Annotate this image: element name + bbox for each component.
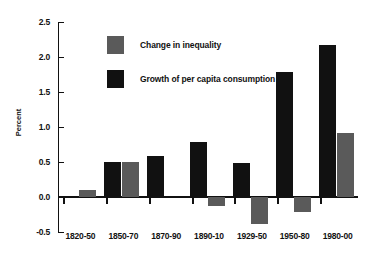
x-tick-mark: [106, 198, 108, 204]
y-tick-mark: [58, 92, 64, 93]
x-tick-mark: [63, 198, 65, 204]
x-tick-mark: [277, 198, 279, 204]
x-tick-label: 1980-00: [323, 231, 353, 241]
bar: [147, 156, 164, 197]
bar: [294, 197, 311, 212]
chart-figure: 2.52.01.51.00.50.0-0.5 Percent 1820-5018…: [0, 0, 372, 261]
y-axis-title: Percent: [14, 93, 23, 153]
bar: [122, 162, 139, 197]
legend-label-change-in-inequality: Change in inequality: [140, 40, 221, 50]
y-tick-label: 1.0: [4, 122, 50, 132]
legend-swatch-black: [107, 70, 124, 88]
x-tick-label: 1929-50: [237, 231, 267, 241]
x-tick-label: 1820-50: [66, 231, 96, 241]
y-tick-mark: [58, 22, 64, 23]
bar: [337, 133, 354, 197]
y-tick-mark: [58, 57, 64, 58]
x-tick-label: 1850-70: [108, 231, 138, 241]
x-tick-mark: [234, 198, 236, 204]
bar: [79, 190, 96, 197]
y-tick-mark: [58, 127, 64, 128]
x-tick-label: 1890-10: [194, 231, 224, 241]
y-tick-mark: [58, 162, 64, 163]
x-tick-mark: [149, 198, 151, 204]
legend-swatch-gray: [107, 36, 124, 54]
y-tick-label: 0.5: [4, 157, 50, 167]
bar: [251, 197, 268, 224]
x-tick-label: 1870-90: [151, 231, 181, 241]
y-tick-mark: [58, 232, 64, 233]
bar: [233, 163, 250, 197]
x-tick-mark: [192, 198, 194, 204]
bar: [276, 72, 293, 197]
y-tick-label: 2.0: [4, 52, 50, 62]
y-tick-label: 0.0: [4, 192, 50, 202]
bar: [104, 162, 121, 197]
bar: [208, 197, 225, 206]
x-tick-label: 1950-80: [280, 231, 310, 241]
legend-label-growth-per-capita-consumption: Growth of per capita consumption: [140, 74, 275, 84]
y-tick-label: -0.5: [4, 227, 50, 237]
x-tick-mark: [320, 198, 322, 204]
bar: [319, 45, 336, 197]
y-tick-label: 2.5: [4, 17, 50, 27]
bar: [190, 142, 207, 197]
y-tick-label: 1.5: [4, 87, 50, 97]
